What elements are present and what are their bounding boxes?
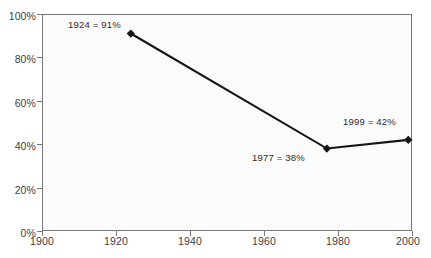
series-line bbox=[131, 34, 409, 149]
line-chart: 0% 20% 40% 60% 80% 100% 1900 1920 1940 1… bbox=[0, 0, 431, 258]
data-point-1999 bbox=[404, 136, 412, 144]
data-series-layer bbox=[0, 0, 431, 258]
annotation-1924: 1924 = 91% bbox=[68, 20, 121, 30]
series-markers bbox=[127, 29, 413, 152]
annotation-1999: 1999 = 42% bbox=[343, 117, 396, 127]
annotation-1977: 1977 = 38% bbox=[252, 153, 305, 163]
